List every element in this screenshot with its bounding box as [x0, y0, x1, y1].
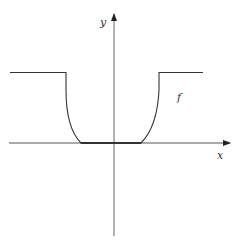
curve-f — [10, 73, 203, 144]
function-graph: y x f — [0, 0, 239, 246]
x-axis-label: x — [217, 149, 224, 162]
curve-f-label: f — [176, 91, 183, 104]
y-axis-label: y — [99, 16, 107, 29]
